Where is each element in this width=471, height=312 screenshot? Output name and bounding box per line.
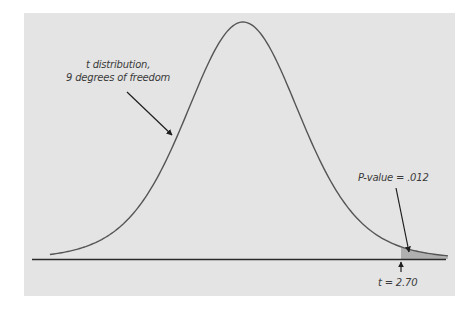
- curve-annotation-line1: t distribution,: [66, 58, 170, 71]
- curve-annotation-line2: 9 degrees of freedom: [66, 71, 170, 84]
- t-distribution-plot: [0, 0, 471, 312]
- curve-label-arrow: [127, 92, 172, 135]
- p-value-arrow: [396, 188, 409, 252]
- p-value-label: P-value = .012: [358, 172, 429, 183]
- curve-annotation: t distribution, 9 degrees of freedom: [66, 58, 170, 84]
- t-statistic-label: t = 2.70: [378, 277, 417, 288]
